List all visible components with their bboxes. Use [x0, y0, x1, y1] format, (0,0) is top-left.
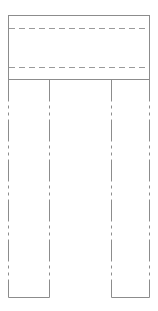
diagram-canvas	[0, 0, 158, 311]
right-leg	[112, 80, 150, 298]
top-box	[9, 16, 150, 80]
left-leg	[9, 80, 50, 298]
